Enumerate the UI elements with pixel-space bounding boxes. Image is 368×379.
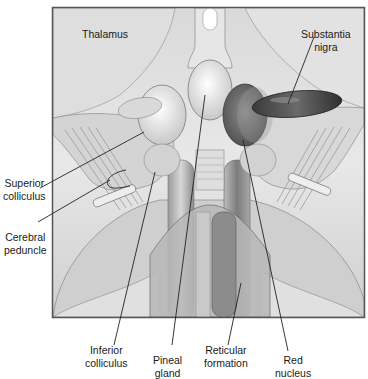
label-reticular-formation: Reticular formation xyxy=(204,344,248,369)
label-cerebral-peduncle: Cerebral peduncle xyxy=(4,231,47,256)
label-thalamus: Thalamus xyxy=(82,28,128,41)
label-pineal-gland: Pineal gland xyxy=(153,354,182,379)
label-substantia-nigra: Substantia nigra xyxy=(301,28,351,53)
midbrain-diagram: Thalamus Substantia nigra Superior colli… xyxy=(0,0,368,379)
label-inferior-colliculus: Inferior colliculus xyxy=(85,344,128,369)
label-red-nucleus: Red nucleus xyxy=(275,354,311,379)
illustration xyxy=(0,0,368,379)
label-superior-colliculus: Superior colliculus xyxy=(3,177,46,202)
